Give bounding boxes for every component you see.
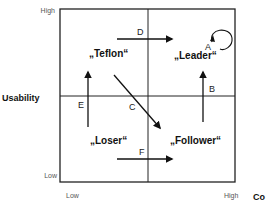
arrow-c [114,75,160,128]
quadrant-loser: „Loser“ [90,135,127,146]
y-axis-title: Usability [2,93,40,103]
x-axis-title: Co [253,192,265,202]
arrow-a-head [210,35,215,42]
x-axis-low-label: Low [66,192,80,199]
y-axis-high-label: High [41,7,56,15]
quadrant-diagram: High Low Usability Low High Co „Teflon“ … [0,0,267,210]
arrow-label-b: B [209,84,215,94]
arrow-label-d: D [137,27,144,37]
arrow-label-c: C [129,102,136,112]
arrow-label-a: A [205,42,211,52]
quadrant-follower: „Follower“ [170,135,221,146]
quadrant-teflon: „Teflon“ [89,48,128,59]
x-axis-high-label: High [224,192,239,200]
arrow-a-loop [212,30,233,49]
arrow-label-f: F [139,147,145,157]
arrow-label-e: E [78,100,84,110]
y-axis-low-label: Low [44,172,58,179]
